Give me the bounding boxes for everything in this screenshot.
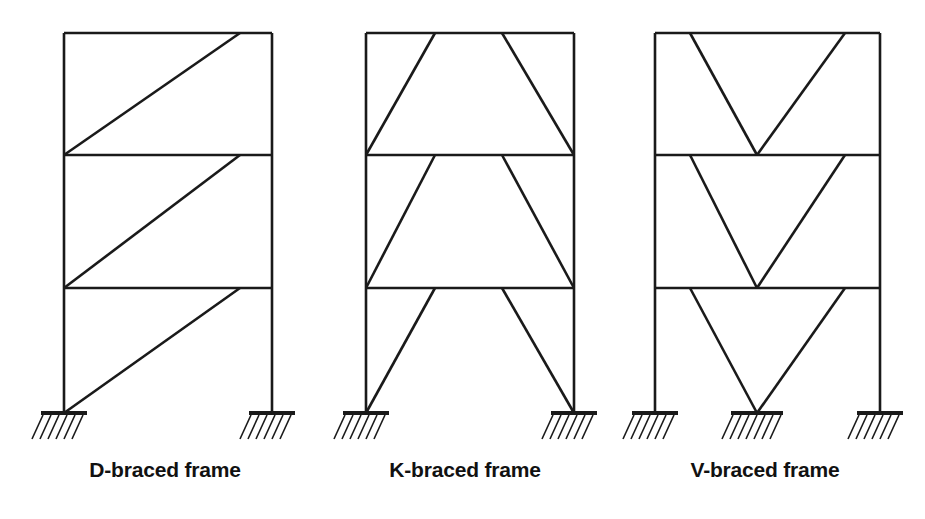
frame-label-v-braced: V-braced frame: [600, 458, 925, 482]
frame-label-d-braced: D-braced frame: [0, 458, 330, 482]
braced-frames-diagram: [0, 0, 925, 519]
diagram-background: [0, 0, 925, 519]
frame-label-k-braced: K-braced frame: [300, 458, 630, 482]
